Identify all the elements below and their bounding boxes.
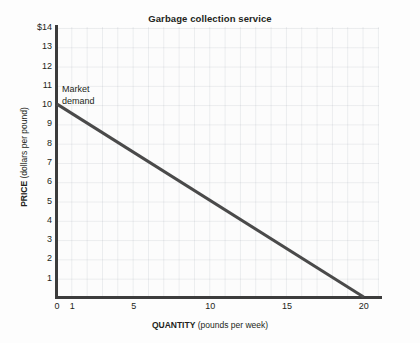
y-tick-label: 3 <box>6 234 52 244</box>
chart-title: Garbage collection service <box>0 13 420 24</box>
y-tick-label: 5 <box>6 196 52 206</box>
x-axis-title-bold: QUANTITY <box>152 320 195 330</box>
y-tick-label: 8 <box>6 138 52 148</box>
x-tick-label: 1 <box>52 301 92 311</box>
y-tick-label: 10 <box>6 99 52 109</box>
y-axis-title-bold: PRICE <box>19 181 29 207</box>
y-tick-label: 13 <box>6 41 52 51</box>
y-axis-title-rest: (dollars per pound) <box>19 107 29 181</box>
y-tick-label: 4 <box>6 215 52 225</box>
series-annotation-market-demand: Market demand <box>62 84 95 107</box>
y-tick-label: 7 <box>6 157 52 167</box>
grid-lines <box>57 27 379 297</box>
chart-figure: Garbage collection service $141312111098… <box>0 0 420 343</box>
y-tick-label: 2 <box>6 253 52 263</box>
series-annotation-line1: Market <box>62 84 95 96</box>
y-tick-label: 6 <box>6 176 52 186</box>
y-tick-label: 1 <box>6 273 52 283</box>
x-axis-line <box>55 296 382 299</box>
x-tick-label: 5 <box>114 301 154 311</box>
y-tick-label: 9 <box>6 118 52 128</box>
y-tick-label: 11 <box>6 80 52 90</box>
y-axis-line <box>55 25 58 299</box>
x-tick-label: 10 <box>190 301 230 311</box>
y-tick-label: $14 <box>6 22 52 32</box>
y-tick-label: 12 <box>6 61 52 71</box>
x-tick-label: 15 <box>267 301 307 311</box>
plot-area <box>57 27 379 297</box>
x-tick-label: 20 <box>344 301 384 311</box>
series-annotation-line2: demand <box>62 96 95 108</box>
x-axis-tick-labels: 015101520 <box>0 301 420 315</box>
y-axis-title: PRICE (dollars per pound) <box>19 67 29 247</box>
x-axis-title: QUANTITY (pounds per week) <box>0 320 420 330</box>
x-axis-title-rest: (pounds per week) <box>195 320 268 330</box>
